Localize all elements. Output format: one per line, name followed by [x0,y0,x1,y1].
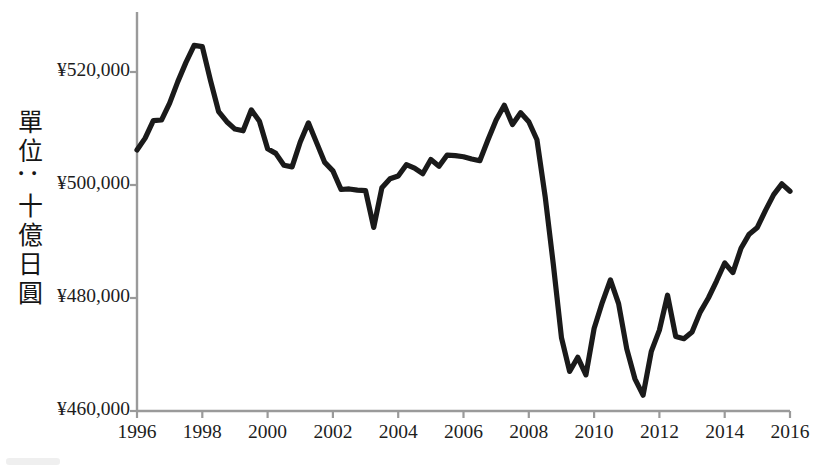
scan-artifact [6,458,60,465]
chart-figure: 單位：十億日圓 ¥460,000¥480,000¥500,000¥520,000… [0,0,816,472]
axes [137,12,790,411]
plot-area [0,0,816,472]
data-series-line [137,45,790,395]
